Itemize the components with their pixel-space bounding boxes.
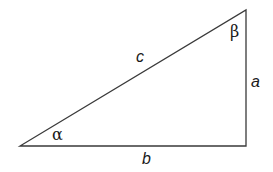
right-triangle-diagram: c a b α β [0,0,273,172]
label-angle-alpha: α [52,125,63,144]
label-side-a: a [251,73,260,90]
label-angle-beta: β [230,22,239,41]
label-hypotenuse-c: c [136,48,144,65]
label-side-b: b [142,150,151,167]
